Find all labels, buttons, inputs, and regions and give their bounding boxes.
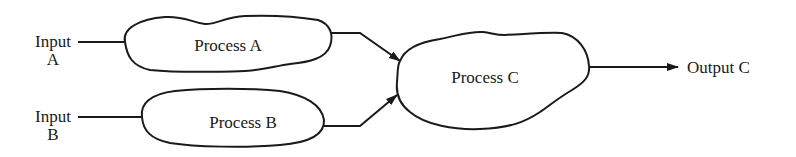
process-c-label: Process C: [451, 68, 519, 87]
process-c-node: Process C: [397, 32, 589, 129]
input-b: Input B: [35, 107, 71, 144]
input-a: Input A: [35, 32, 71, 69]
process-a-node: Process A: [125, 16, 332, 72]
input-a-label-line1: Input: [35, 32, 71, 51]
process-flow-diagram: Input A Input B Process A Process B Proc…: [0, 0, 796, 157]
output-c-label: Output C: [687, 58, 750, 77]
process-b-label: Process B: [209, 113, 277, 132]
input-b-label-line1: Input: [35, 107, 71, 126]
process-a-label: Process A: [194, 36, 262, 55]
edge-process-b-to-process-c: [324, 95, 397, 126]
edge-process-a-to-process-c: [331, 33, 400, 61]
input-b-label-line2: B: [47, 125, 58, 144]
input-a-label-line2: A: [47, 50, 60, 69]
process-b-node: Process B: [142, 89, 324, 147]
